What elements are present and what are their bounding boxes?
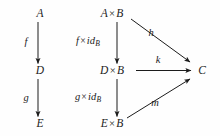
node-D-times-B-right: B	[117, 64, 124, 76]
times-icon: ×	[79, 35, 87, 46]
identity-subscript-B: B	[96, 95, 101, 104]
identity-morphism-text: id	[88, 91, 96, 102]
edge-label-h: h	[148, 28, 153, 39]
edge-label-g-text: g	[23, 92, 28, 103]
node-A-times-B-left: A	[101, 7, 108, 19]
edge-label-g: g	[23, 93, 28, 104]
node-D: D	[36, 65, 44, 77]
edge-label-m-text: m	[151, 97, 159, 108]
node-E-times-B: E×B	[101, 118, 124, 130]
edge-label-g-times-idB: g×idB	[75, 92, 101, 104]
node-E: E	[36, 118, 43, 130]
edge-label-f-text: f	[25, 36, 28, 47]
times-icon: ×	[108, 8, 117, 19]
node-A: A	[36, 8, 43, 20]
node-D-times-B: D×B	[100, 65, 124, 77]
node-A-times-B-right: B	[116, 7, 123, 19]
edge-label-k: k	[156, 55, 161, 66]
node-A-times-B: A×B	[101, 8, 124, 20]
node-E-times-B-right: B	[116, 117, 123, 129]
node-E-times-B-left: E	[101, 117, 108, 129]
commutative-diagram: A D E A×B D×B E×B C f g f×idB g×idB h k …	[0, 0, 220, 136]
identity-subscript-B: B	[95, 39, 100, 48]
edge-label-h-text: h	[148, 27, 153, 38]
times-icon: ×	[108, 65, 117, 76]
times-icon: ×	[80, 91, 88, 102]
times-icon: ×	[108, 118, 117, 129]
edge-label-f-times-idB: f×idB	[76, 36, 100, 48]
node-E-label: E	[36, 117, 43, 129]
node-C-label: C	[198, 64, 206, 76]
edge-label-m: m	[151, 98, 159, 109]
node-A-label: A	[36, 7, 43, 19]
edge-label-k-text: k	[156, 54, 161, 65]
edge-label-f: f	[25, 37, 28, 48]
node-D-label: D	[36, 64, 44, 76]
identity-morphism-text: id	[87, 35, 95, 46]
node-C: C	[198, 65, 206, 77]
